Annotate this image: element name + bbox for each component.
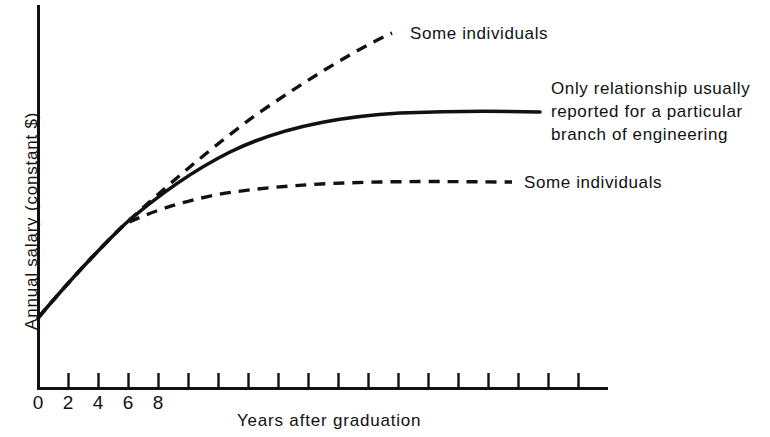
x-axis-title: Years after graduation (237, 411, 421, 431)
x-tick-label-6: 6 (115, 392, 141, 414)
annotation-main-relationship: Only relationship usually reported for a… (551, 77, 750, 146)
curve-upper-dashed (38, 33, 392, 318)
x-tick-label-4: 4 (85, 392, 111, 414)
annotation-lower-some-individuals: Some individuals (524, 171, 662, 194)
annotation-main-line-1: Only relationship usually (551, 77, 750, 100)
x-tick-label-8: 8 (145, 392, 171, 414)
x-axis-ticks (69, 373, 579, 388)
chart-figure: 0 2 4 6 8 Years after graduation Annual … (0, 0, 770, 437)
annotation-main-line-2: reported for a particular (551, 100, 750, 123)
curve-solid-main (38, 111, 540, 318)
x-tick-label-0: 0 (25, 392, 51, 414)
y-axis-title: Annual salary (constant $) (22, 112, 42, 330)
x-tick-label-2: 2 (55, 392, 81, 414)
chart-canvas (0, 0, 770, 437)
annotation-upper-some-individuals: Some individuals (410, 22, 548, 45)
curve-lower-dashed (38, 182, 512, 318)
annotation-main-line-3: branch of engineering (551, 123, 750, 146)
